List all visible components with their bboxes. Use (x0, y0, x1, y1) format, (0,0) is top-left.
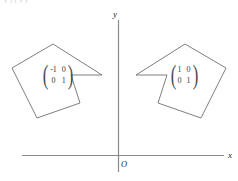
matrix-right-paren: ) (68, 62, 74, 89)
matrix-values: -1 0 0 1 (50, 64, 66, 86)
matrix-cell-r0c0: 1 (178, 64, 182, 75)
diagram-svg: y x O (0, 0, 238, 181)
matrix-cell-r1c1: 1 (187, 75, 191, 86)
x-axis-label: x (227, 150, 232, 160)
identity-matrix: ( 1 0 0 1 ) (160, 60, 208, 90)
axes-group: y x O (22, 9, 232, 172)
matrix-cell-r1c0: 0 (50, 75, 57, 86)
reflection-matrix: ( -1 0 0 1 ) (34, 60, 82, 90)
matrix-cell-r0c1: 0 (187, 64, 191, 75)
origin-label: O (121, 159, 127, 169)
matrix-values: 1 0 0 1 (178, 64, 191, 86)
matrix-cell-r1c1: 1 (62, 75, 66, 86)
matrix-cell-r0c1: 0 (62, 64, 66, 75)
y-axis-label: y (112, 9, 117, 19)
matrix-left-paren: ( (43, 62, 49, 89)
matrix-left-paren: ( (170, 62, 176, 89)
matrix-cell-r1c0: 0 (178, 75, 182, 86)
matrix-right-paren: ) (192, 62, 198, 89)
matrix-cell-r0c0: -1 (50, 64, 57, 75)
